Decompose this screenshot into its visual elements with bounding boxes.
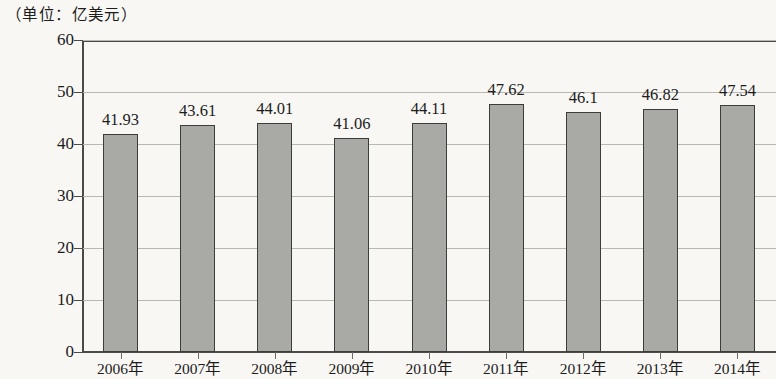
x-axis-label-2008年: 2008年 <box>251 356 298 378</box>
x-axis-label-2012年: 2012年 <box>560 356 607 378</box>
y-tick-60 <box>74 40 83 41</box>
y-axis-label-20: 20 <box>14 238 74 258</box>
y-axis-label-10: 10 <box>14 290 74 310</box>
bar-2013年 <box>643 109 678 352</box>
y-tick-10 <box>74 300 83 301</box>
x-axis-label-2006年: 2006年 <box>97 356 144 378</box>
bar-chart: （单位：亿美元） 60 50 40 30 20 10 0 41.9343.614… <box>0 0 776 379</box>
y-tick-40 <box>74 144 83 145</box>
value-label-2010年: 44.11 <box>411 99 448 119</box>
x-axis-label-2013年: 2013年 <box>637 356 684 378</box>
bar-2010年 <box>412 123 447 352</box>
y-axis-label-40: 40 <box>14 134 74 154</box>
y-tick-50 <box>74 92 83 93</box>
y-tick-0 <box>74 352 83 353</box>
bar-2009年 <box>334 138 369 352</box>
value-label-2009年: 41.06 <box>333 114 370 134</box>
value-label-2012年: 46.1 <box>569 88 598 108</box>
value-label-2007年: 43.61 <box>179 101 216 121</box>
y-axis-label-30: 30 <box>14 186 74 206</box>
bar-2008年 <box>257 123 292 352</box>
value-label-2008年: 44.01 <box>256 99 293 119</box>
x-axis-label-2014年: 2014年 <box>714 356 761 378</box>
bar-2012年 <box>566 112 601 352</box>
bar-2006年 <box>103 134 138 352</box>
value-label-2011年: 47.62 <box>488 80 525 100</box>
x-axis-label-2007年: 2007年 <box>174 356 221 378</box>
unit-caption: （单位：亿美元） <box>6 2 137 24</box>
value-label-2006年: 41.93 <box>102 110 139 130</box>
value-label-2013年: 46.82 <box>642 85 679 105</box>
y-axis-label-0: 0 <box>14 342 74 362</box>
y-tick-20 <box>74 248 83 249</box>
bar-2011年 <box>489 104 524 352</box>
bar-2014年 <box>720 105 755 352</box>
x-axis-label-2010年: 2010年 <box>406 356 453 378</box>
value-label-2014年: 47.54 <box>719 81 756 101</box>
x-axis-label-2011年: 2011年 <box>483 356 529 378</box>
y-tick-30 <box>74 196 83 197</box>
y-axis-label-50: 50 <box>14 82 74 102</box>
y-axis-label-60: 60 <box>14 30 74 50</box>
x-axis-label-2009年: 2009年 <box>328 356 375 378</box>
gridline-60 <box>82 40 776 41</box>
bar-2007年 <box>180 125 215 352</box>
